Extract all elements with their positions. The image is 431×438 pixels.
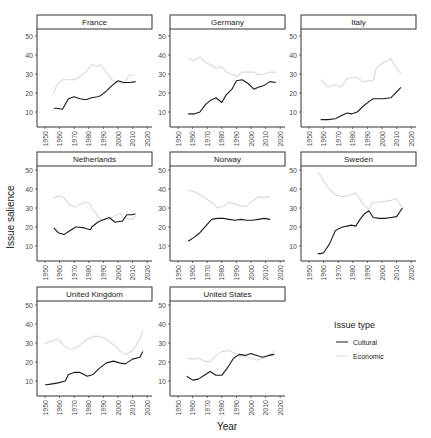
x-tick-label: 1950 xyxy=(306,265,313,281)
x-tick-label: 2000 xyxy=(248,265,255,281)
panel-norway: Norway1020304050195019601970198019902000… xyxy=(158,152,285,281)
x-tick-label: 2010 xyxy=(393,265,400,281)
x-tick-label: 2010 xyxy=(129,131,136,147)
x-tick-label: 1990 xyxy=(233,131,240,147)
y-tick-label: 50 xyxy=(25,33,33,40)
panel-germany: Germany102030405019501960197019801990200… xyxy=(158,15,285,147)
y-tick-label: 10 xyxy=(289,109,297,116)
x-tick-label: 2010 xyxy=(393,131,400,147)
x-tick-label: 1950 xyxy=(42,400,49,416)
x-tick-label: 1980 xyxy=(218,400,225,416)
y-tick-label: 30 xyxy=(25,71,33,78)
x-tick-label: 2020 xyxy=(277,131,284,147)
x-tick-label: 1960 xyxy=(320,131,327,147)
line-economic xyxy=(188,190,270,208)
y-tick-label: 40 xyxy=(25,321,33,328)
x-tick-label: 2000 xyxy=(248,400,255,416)
x-tick-label: 1970 xyxy=(335,265,342,281)
panel-sweden: Sweden1020304050195019601970198019902000… xyxy=(289,152,416,281)
x-tick-label: 2000 xyxy=(115,400,122,416)
legend-label-economic: Economic xyxy=(353,353,384,360)
x-tick-label: 1980 xyxy=(349,265,356,281)
x-tick-label: 1950 xyxy=(306,131,313,147)
x-tick-label: 1980 xyxy=(349,131,356,147)
y-tick-label: 50 xyxy=(289,33,297,40)
line-cultural xyxy=(188,218,270,241)
line-cultural xyxy=(188,80,276,114)
y-tick-label: 40 xyxy=(158,321,166,328)
x-tick-label: 2000 xyxy=(248,131,255,147)
y-tick-label: 20 xyxy=(25,90,33,97)
x-tick-label: 2020 xyxy=(144,265,151,281)
x-tick-label: 2020 xyxy=(277,400,284,416)
panel-united-kingdom: United Kingdom10203040501950196019701980… xyxy=(25,287,152,416)
y-tick-label: 20 xyxy=(25,359,33,366)
x-tick-label: 1950 xyxy=(175,131,182,147)
x-tick-label: 1960 xyxy=(56,131,63,147)
facet-label: Sweden xyxy=(344,155,373,164)
y-tick-label: 10 xyxy=(25,243,33,250)
x-tick-label: 1970 xyxy=(335,131,342,147)
x-tick-label: 1950 xyxy=(175,400,182,416)
line-economic xyxy=(54,65,136,94)
y-tick-label: 30 xyxy=(158,205,166,212)
line-economic xyxy=(321,59,401,88)
x-tick-label: 2020 xyxy=(408,131,415,147)
x-tick-label: 2020 xyxy=(408,265,415,281)
x-tick-label: 2000 xyxy=(379,131,386,147)
x-tick-label: 2020 xyxy=(144,400,151,416)
x-tick-label: 2010 xyxy=(262,131,269,147)
x-tick-label: 1990 xyxy=(364,265,371,281)
x-tick-label: 1980 xyxy=(85,265,92,281)
x-tick-label: 1950 xyxy=(42,265,49,281)
y-tick-label: 40 xyxy=(158,186,166,193)
x-tick-label: 1970 xyxy=(204,400,211,416)
line-cultural xyxy=(321,87,401,119)
x-tick-label: 1980 xyxy=(85,131,92,147)
y-tick-label: 20 xyxy=(289,224,297,231)
x-tick-label: 1980 xyxy=(218,265,225,281)
x-tick-label: 1960 xyxy=(189,400,196,416)
x-tick-label: 1990 xyxy=(233,400,240,416)
y-tick-label: 40 xyxy=(25,52,33,59)
panel-united-states: United States102030405019501960197019801… xyxy=(158,287,285,416)
y-tick-label: 40 xyxy=(289,186,297,193)
x-tick-label: 1970 xyxy=(204,131,211,147)
y-tick-label: 30 xyxy=(289,205,297,212)
x-tick-label: 1950 xyxy=(42,131,49,147)
x-tick-label: 1960 xyxy=(56,265,63,281)
x-tick-label: 1960 xyxy=(189,265,196,281)
x-tick-label: 1980 xyxy=(85,400,92,416)
y-tick-label: 20 xyxy=(158,359,166,366)
y-tick-label: 40 xyxy=(25,186,33,193)
legend-label-cultural: Cultural xyxy=(353,339,378,346)
y-tick-label: 50 xyxy=(25,167,33,174)
x-tick-label: 1960 xyxy=(320,265,327,281)
y-tick-label: 20 xyxy=(289,90,297,97)
line-economic xyxy=(318,173,403,209)
x-tick-label: 2020 xyxy=(144,131,151,147)
x-tick-label: 2010 xyxy=(129,265,136,281)
x-tick-label: 1970 xyxy=(71,131,78,147)
y-tick-label: 30 xyxy=(289,71,297,78)
x-tick-label: 2020 xyxy=(277,265,284,281)
y-tick-label: 10 xyxy=(158,243,166,250)
x-tick-label: 1990 xyxy=(100,400,107,416)
panel-netherlands: Netherlands10203040501950196019701980199… xyxy=(25,152,152,281)
facet-label: Norway xyxy=(214,155,241,164)
y-tick-label: 50 xyxy=(25,302,33,309)
legend: Issue type Cultural Economic xyxy=(334,320,384,360)
line-cultural xyxy=(187,353,275,380)
y-tick-label: 10 xyxy=(25,378,33,385)
y-tick-label: 30 xyxy=(25,205,33,212)
panel-france: France1020304050195019601970198019902000… xyxy=(25,15,152,147)
line-economic xyxy=(188,57,276,77)
panel-italy: Italy10203040501950196019701980199020002… xyxy=(289,15,416,147)
x-tick-label: 1970 xyxy=(71,265,78,281)
y-axis-title: Issue salience xyxy=(5,185,16,249)
line-economic xyxy=(45,331,143,355)
x-tick-label: 2010 xyxy=(129,400,136,416)
facet-label: United States xyxy=(203,290,251,299)
y-tick-label: 50 xyxy=(158,302,166,309)
facet-label: Netherlands xyxy=(73,155,116,164)
